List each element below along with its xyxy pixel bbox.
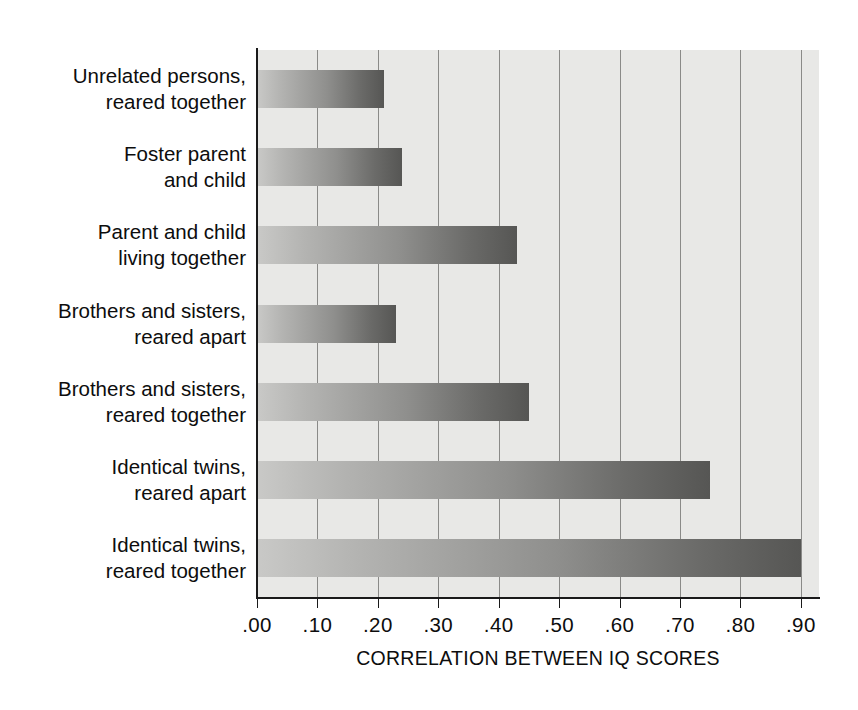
x-axis-tick-mark [801, 597, 802, 608]
x-axis-tick-label: .50 [529, 612, 589, 638]
category-label: Foster parent and child [22, 141, 246, 193]
bar [257, 539, 801, 577]
gridline [740, 50, 741, 597]
x-axis-tick-mark [620, 597, 621, 608]
gridline [801, 50, 802, 597]
bar [257, 383, 529, 421]
x-axis-tick-label: .40 [469, 612, 529, 638]
x-axis-tick-label: .60 [590, 612, 650, 638]
x-axis-tick-mark [499, 597, 500, 608]
x-axis-tick-mark [378, 597, 379, 608]
category-label: Identical twins, reared apart [22, 454, 246, 506]
category-axis-labels: Unrelated persons, reared togetherFoster… [14, 50, 246, 597]
bar [257, 461, 710, 499]
x-axis-tick-label: .20 [348, 612, 408, 638]
x-axis-line [256, 597, 820, 599]
bar [257, 305, 396, 343]
x-axis-tick-mark [317, 597, 318, 608]
x-axis-tick-label: .80 [710, 612, 770, 638]
x-axis-tick-mark [438, 597, 439, 608]
x-axis-tick-label: .70 [650, 612, 710, 638]
x-axis-tick-mark [559, 597, 560, 608]
gridline [559, 50, 560, 597]
bar [257, 226, 517, 264]
bar [257, 70, 384, 108]
x-axis-tick-label: .00 [227, 612, 287, 638]
category-label: Parent and child living together [22, 219, 246, 271]
x-axis-tick-mark [740, 597, 741, 608]
category-label: Brothers and sisters, reared together [22, 376, 246, 428]
x-axis-title: CORRELATION BETWEEN IQ SCORES [257, 646, 819, 670]
category-label: Identical twins, reared together [22, 532, 246, 584]
gridline [620, 50, 621, 597]
x-axis-tick-mark [680, 597, 681, 608]
x-axis-tick-mark [257, 597, 258, 608]
gridline [680, 50, 681, 597]
x-axis-tick-labels: .00.10.20.30.40.50.60.70.80.90 [0, 612, 858, 642]
bar [257, 148, 402, 186]
y-axis-line [256, 48, 258, 599]
iq-correlation-bar-chart: Unrelated persons, reared togetherFoster… [0, 0, 858, 710]
x-axis-tick-label: .30 [408, 612, 468, 638]
x-axis-tick-label: .90 [771, 612, 831, 638]
x-axis-tick-label: .10 [287, 612, 347, 638]
gridline [438, 50, 439, 597]
plot-area [257, 50, 819, 597]
gridline [499, 50, 500, 597]
category-label: Unrelated persons, reared together [22, 63, 246, 115]
category-label: Brothers and sisters, reared apart [22, 298, 246, 350]
